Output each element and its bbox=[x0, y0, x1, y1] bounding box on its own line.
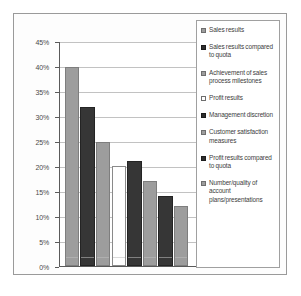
chart-legend: Sales resultsSales results compared to q… bbox=[196, 20, 280, 268]
y-axis-tick: 0% bbox=[55, 267, 59, 268]
y-axis-tick-label: 35% bbox=[36, 89, 49, 96]
legend-swatch-icon bbox=[201, 28, 206, 33]
bar-4 bbox=[112, 166, 126, 266]
legend-item-6[interactable]: Customer satisfaction measures bbox=[201, 128, 276, 144]
legend-item-5[interactable]: Management discretion bbox=[201, 111, 276, 119]
legend-item-label: Sales results compared to quota bbox=[209, 43, 276, 59]
bar-chart-figure: 0%5%10%15%20%25%30%35%40%45% Sales resul… bbox=[0, 0, 301, 296]
bar-5 bbox=[127, 161, 141, 266]
legend-item-label: Number/quality of account plans/presenta… bbox=[209, 179, 276, 204]
bar-1 bbox=[65, 67, 79, 266]
plot-area: 0%5%10%15%20%25%30%35%40%45% bbox=[59, 42, 202, 267]
legend-swatch-icon bbox=[201, 130, 206, 135]
y-axis-tick-label: 30% bbox=[36, 114, 49, 121]
legend-item-label: Profit results compared to quota bbox=[209, 154, 276, 170]
legend-swatch-icon bbox=[201, 156, 206, 161]
legend-item-7[interactable]: Profit results compared to quota bbox=[201, 154, 276, 170]
y-axis-tick-label: 0% bbox=[39, 264, 49, 271]
legend-item-2[interactable]: Sales results compared to quota bbox=[201, 43, 276, 59]
x-axis-line bbox=[59, 266, 202, 267]
legend-item-4[interactable]: Profit results bbox=[201, 94, 276, 102]
bar-3 bbox=[96, 142, 110, 266]
legend-item-1[interactable]: Sales results bbox=[201, 26, 276, 34]
legend-item-label: Sales results bbox=[209, 26, 244, 34]
legend-swatch-icon bbox=[201, 96, 206, 101]
legend-item-label: Management discretion bbox=[209, 111, 273, 119]
legend-item-3[interactable]: Achievement of sales process milestones bbox=[201, 69, 276, 85]
legend-swatch-icon bbox=[201, 181, 206, 186]
y-axis-tick-label: 15% bbox=[36, 189, 49, 196]
legend-swatch-icon bbox=[201, 45, 206, 50]
bar-7 bbox=[158, 196, 172, 266]
y-axis-tick-label: 5% bbox=[39, 239, 49, 246]
legend-swatch-icon bbox=[201, 113, 206, 118]
legend-item-8[interactable]: Number/quality of account plans/presenta… bbox=[201, 179, 276, 204]
legend-item-label: Achievement of sales process milestones bbox=[209, 69, 276, 85]
y-axis-tick-label: 20% bbox=[36, 164, 49, 171]
legend-item-label: Customer satisfaction measures bbox=[209, 128, 276, 144]
y-axis-tick-label: 45% bbox=[36, 39, 49, 46]
bar-2 bbox=[80, 107, 94, 266]
bar-8 bbox=[174, 206, 188, 266]
y-axis-tick-label: 40% bbox=[36, 64, 49, 71]
y-axis-tick-label: 25% bbox=[36, 139, 49, 146]
y-axis-tick-label: 10% bbox=[36, 214, 49, 221]
bar-6 bbox=[143, 181, 157, 266]
bar-series bbox=[60, 42, 202, 266]
legend-item-label: Profit results bbox=[209, 94, 243, 102]
legend-swatch-icon bbox=[201, 71, 206, 76]
